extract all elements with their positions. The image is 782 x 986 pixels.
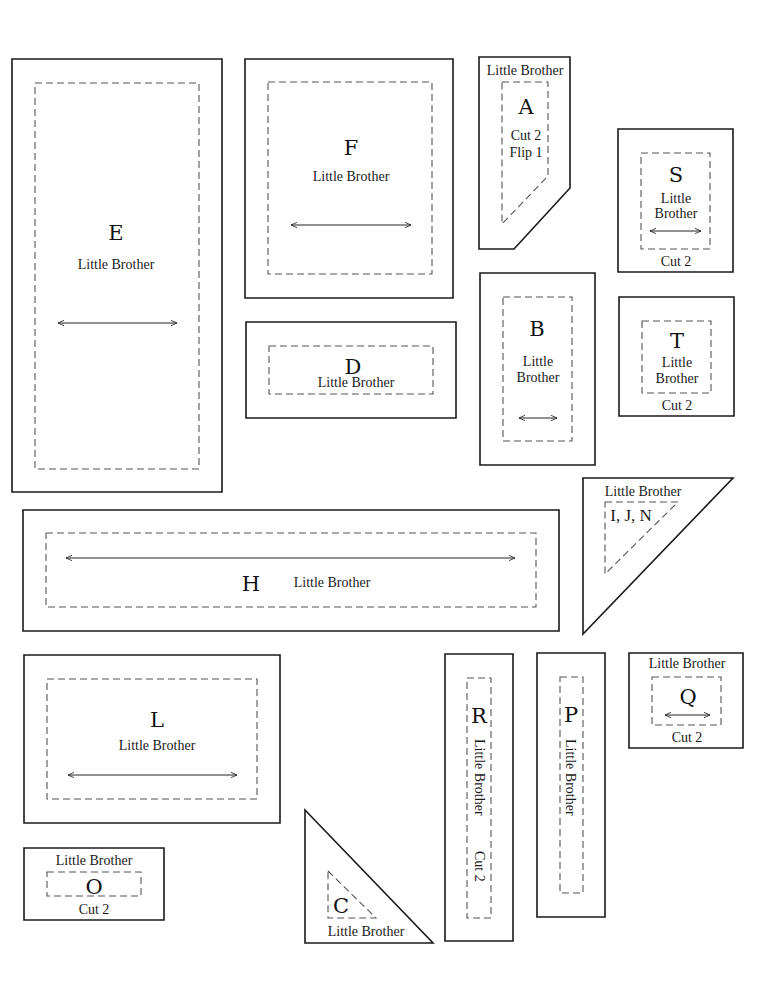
pattern-piece-t: TLittleBrotherCut 2 (619, 297, 734, 416)
pattern-piece-d: DLittle Brother (246, 322, 456, 418)
pattern-pieces: ELittle BrotherFLittle BrotherLittle Bro… (12, 57, 743, 943)
cut-count-label: Cut 2 (662, 398, 693, 413)
piece-label: Cut 2 (511, 128, 542, 143)
piece-letter: C (333, 894, 349, 918)
piece-letter: P (564, 703, 578, 727)
pattern-piece-s: SLittleBrotherCut 2 (618, 129, 733, 272)
piece-label: Little Brother (313, 169, 390, 184)
cut-line (23, 510, 559, 631)
pattern-piece-a: Little BrotherACut 2Flip 1 (479, 57, 570, 249)
piece-label: Little Brother (78, 257, 155, 272)
piece-label: Little Brother (605, 484, 682, 499)
piece-letter: E (108, 221, 123, 245)
piece-label: Brother (655, 206, 698, 221)
pattern-piece-r: RLittle BrotherCut 2 (445, 654, 513, 941)
pattern-piece-b: BLittleBrother (480, 273, 595, 465)
pattern-piece-ijn: Little BrotherI, J, N (583, 478, 733, 634)
piece-label: Little Brother (487, 63, 564, 78)
cut-count-label: Cut 2 (672, 730, 703, 745)
piece-label: Little Brother (649, 656, 726, 671)
piece-label: Little Brother (328, 924, 405, 939)
piece-letter: B (529, 317, 544, 341)
piece-letter: A (517, 95, 534, 119)
cut-line (480, 273, 595, 465)
piece-label: Brother (517, 370, 560, 385)
cut-count-label: Cut 2 (661, 254, 692, 269)
pattern-piece-o: Little BrotherOCut 2 (24, 848, 164, 920)
piece-letter: R (471, 704, 488, 728)
pattern-piece-h: HLittle Brother (23, 510, 559, 631)
piece-label: Little (662, 355, 692, 370)
piece-label: Brother (656, 371, 699, 386)
pattern-piece-q: Little BrotherQCut 2 (629, 653, 743, 748)
piece-label: Little (523, 354, 553, 369)
pattern-piece-f: FLittle Brother (245, 59, 453, 298)
piece-label-vertical: Little Brother (472, 739, 487, 816)
piece-letter: F (344, 136, 359, 160)
piece-label: Flip 1 (509, 145, 542, 160)
pattern-piece-e: ELittle Brother (12, 59, 222, 492)
pattern-piece-c: CLittle Brother (305, 810, 433, 943)
piece-letter: S (669, 163, 683, 187)
pattern-sheet: ELittle BrotherFLittle BrotherLittle Bro… (0, 0, 782, 986)
piece-label: Little Brother (119, 738, 196, 753)
piece-letter: L (150, 708, 164, 732)
piece-letter: O (85, 875, 102, 899)
cut-line (12, 59, 222, 492)
piece-label: Little (661, 191, 691, 206)
piece-label: Little Brother (294, 575, 371, 590)
piece-letter: T (670, 329, 684, 353)
piece-label: Little Brother (318, 375, 395, 390)
pattern-piece-l: LLittle Brother (24, 655, 280, 823)
cut-count-label: Cut 2 (79, 902, 110, 917)
pattern-piece-p: PLittle Brother (537, 653, 605, 917)
piece-label-vertical: Cut 2 (472, 851, 487, 882)
piece-letter: Q (679, 685, 696, 709)
piece-label-vertical: Little Brother (563, 739, 578, 816)
piece-letter: H (242, 572, 260, 596)
piece-label: Little Brother (56, 853, 133, 868)
piece-label: I, J, N (610, 506, 652, 525)
